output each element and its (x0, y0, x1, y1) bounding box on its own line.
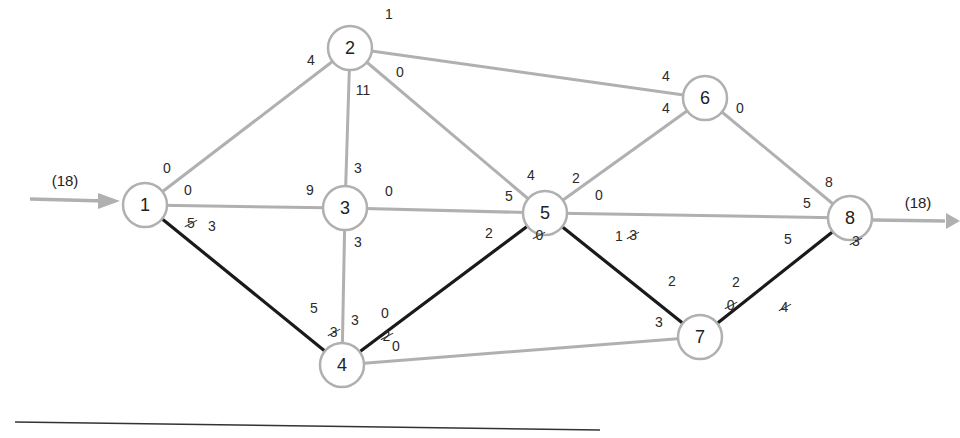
edge-3-4 (342, 208, 345, 365)
capacity-label: 0 (163, 161, 171, 175)
capacity-label: 5 (784, 232, 792, 246)
capacity-label: 0 (381, 306, 389, 320)
capacity-label: 9 (306, 183, 314, 197)
capacity-label: 4 (307, 53, 315, 67)
capacity-label: 4 (527, 168, 535, 182)
capacity-label: 5 (310, 301, 318, 315)
capacity-label: 3 (354, 161, 362, 175)
node-label-7: 7 (695, 328, 705, 346)
struck-capacity-label: 5 (187, 215, 195, 231)
edge-6-8 (705, 98, 850, 218)
edge-1-4 (145, 205, 342, 365)
edge-1-3 (145, 205, 345, 208)
node-label-4: 4 (337, 356, 347, 374)
capacity-label: 0 (595, 188, 603, 202)
flow-network-diagram: 041011053930353320045202031440855320324 … (0, 0, 960, 438)
capacity-label: 0 (736, 101, 744, 115)
capacity-label: 0 (385, 184, 393, 198)
capacity-label: 3 (655, 315, 663, 329)
source-flow-label: (18) (52, 173, 79, 188)
capacity-label: 5 (505, 189, 513, 203)
capacity-label: 1 (385, 7, 393, 21)
capacity-label: 1 (615, 229, 623, 243)
struck-capacity-label: 3 (629, 227, 637, 243)
struck-capacity-label: 3 (330, 324, 338, 340)
network-graphics (0, 0, 960, 438)
sink-flow-label: (18) (905, 195, 932, 210)
node-label-3: 3 (340, 199, 350, 217)
edge-4-5 (342, 213, 545, 365)
edge-7-8 (700, 218, 850, 337)
struck-capacity-label: 0 (535, 227, 543, 243)
capacity-label: 4 (662, 101, 670, 115)
node-label-5: 5 (540, 204, 550, 222)
capacity-label: 0 (184, 183, 192, 197)
capacity-label: 0 (396, 65, 404, 79)
capacity-label: 8 (825, 175, 833, 189)
capacity-label: 3 (351, 313, 359, 327)
capacity-label: 0 (392, 339, 400, 353)
sink-arrow (872, 213, 960, 229)
capacity-label: 4 (662, 69, 670, 83)
capacity-label: 2 (572, 171, 580, 185)
edge-1-2 (145, 48, 350, 205)
edge-3-5 (345, 208, 545, 213)
capacity-label: 3 (354, 235, 362, 249)
capacity-label: 5 (803, 196, 811, 210)
node-label-2: 2 (345, 39, 355, 57)
source-arrow (30, 193, 120, 209)
capacity-label: 3 (208, 219, 216, 233)
capacity-label: 2 (668, 274, 676, 288)
edge-5-6 (545, 98, 705, 213)
edge-5-8 (545, 213, 850, 218)
capacity-label: 11 (356, 83, 371, 97)
node-label-8: 8 (845, 209, 855, 227)
struck-capacity-label: 0 (727, 297, 735, 313)
capacity-label: 2 (485, 226, 493, 240)
capacity-label: 2 (732, 275, 740, 289)
bottom-rule (15, 422, 600, 430)
node-label-6: 6 (700, 89, 710, 107)
edge-2-3 (345, 48, 350, 208)
struck-capacity-label: 3 (852, 233, 860, 249)
struck-capacity-label: 2 (383, 328, 391, 344)
node-label-1: 1 (140, 196, 150, 214)
struck-capacity-label: 4 (781, 299, 789, 315)
